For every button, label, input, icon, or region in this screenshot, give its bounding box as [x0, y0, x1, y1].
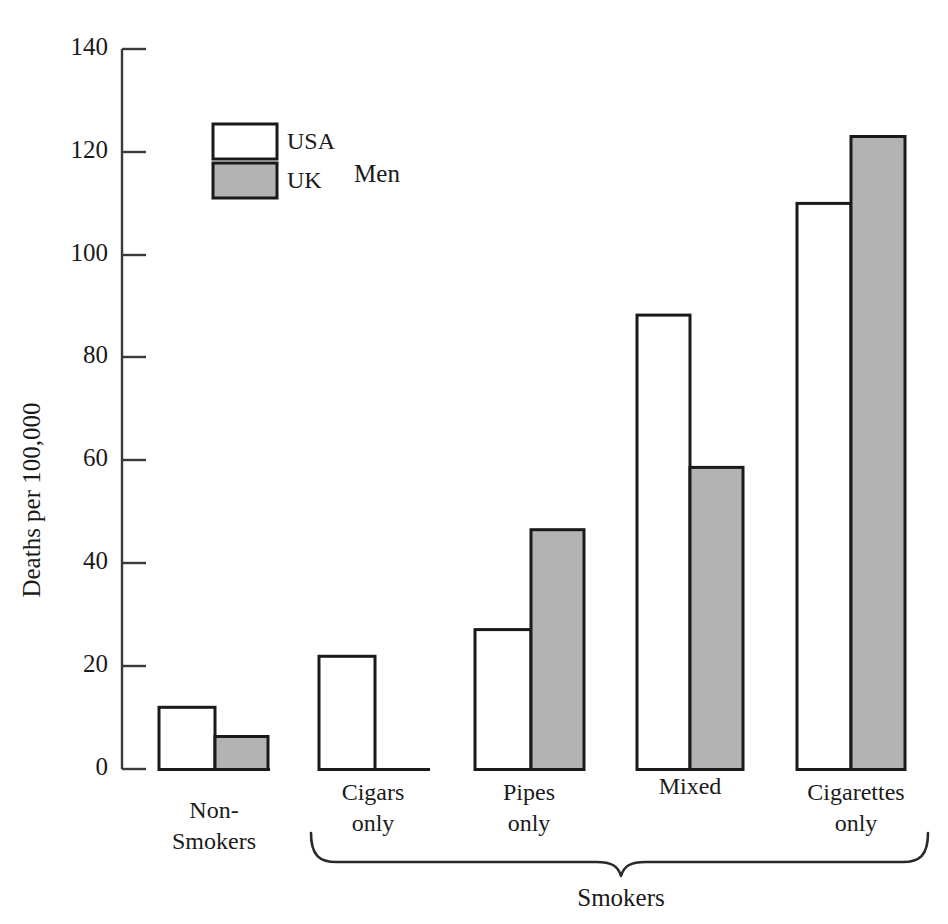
y-tick-label-80: 80 — [83, 341, 108, 368]
legend-label-uk: UK — [287, 167, 322, 193]
bar-cigarettes-only-usa[interactable] — [797, 203, 851, 769]
smokers-bracket-label: Smokers — [577, 884, 665, 911]
category-label-non-smokers-line2: Smokers — [172, 828, 256, 854]
bar-pipes-only-usa[interactable] — [475, 630, 531, 770]
bar-mixed-uk[interactable] — [690, 467, 743, 769]
y-tick-label-60: 60 — [83, 444, 108, 471]
bar-mixed-usa[interactable] — [637, 315, 690, 769]
category-label-pipes-only-line1: Pipes — [503, 779, 555, 805]
bar-chart: 140 120 100 80 60 40 20 0 Deaths per 100… — [0, 0, 948, 924]
y-axis-title: Deaths per 100,000 — [18, 402, 45, 597]
legend-swatch-uk — [213, 163, 277, 198]
y-tick-label-20: 20 — [83, 650, 108, 677]
category-label-cigarettes-only-line2: only — [835, 810, 878, 836]
chart-figure: 140 120 100 80 60 40 20 0 Deaths per 100… — [0, 0, 948, 924]
category-label-mixed-line1: Mixed — [659, 773, 722, 799]
y-tick-label-0: 0 — [96, 753, 109, 780]
bar-cigarettes-only-uk[interactable] — [851, 137, 905, 770]
legend-label-usa: USA — [287, 128, 336, 154]
y-tick-label-140: 140 — [71, 33, 109, 60]
y-tick-label-100: 100 — [71, 239, 109, 266]
category-label-non-smokers-line1: Non- — [189, 797, 238, 823]
category-label-cigarettes-only-line1: Cigarettes — [807, 779, 904, 805]
y-tick-label-120: 120 — [71, 136, 109, 163]
bar-group-cigarettes-only — [797, 137, 905, 770]
bar-group-cigars-only — [319, 656, 375, 769]
category-label-cigars-only-line1: Cigars — [342, 779, 405, 805]
bar-non-smokers-usa[interactable] — [159, 707, 215, 769]
category-label-pipes-only-line2: only — [508, 810, 551, 836]
legend-swatch-usa — [213, 124, 277, 159]
bar-cigars-only-usa[interactable] — [319, 656, 375, 769]
category-label-cigars-only-line2: only — [352, 810, 395, 836]
y-tick-label-40: 40 — [83, 547, 108, 574]
bar-pipes-only-uk[interactable] — [531, 530, 584, 770]
bar-non-smokers-uk[interactable] — [215, 737, 268, 770]
men-annotation: Men — [354, 160, 400, 187]
